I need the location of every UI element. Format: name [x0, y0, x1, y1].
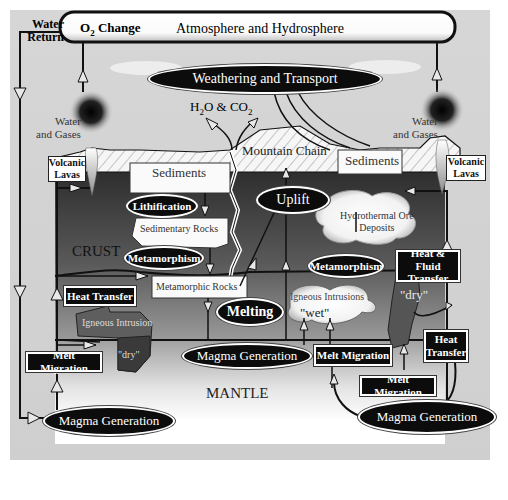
- igneous-intrusions-right-label: Igneous Intrusions: [290, 292, 364, 302]
- heat-fluid-line2: Transfer: [398, 272, 458, 285]
- sediments-right-label: Sediments: [345, 154, 399, 167]
- heat-transfer-left-label: Heat Transfer: [67, 290, 133, 303]
- metamorphism-right-label: Metamorphism: [310, 260, 383, 272]
- weathering-transport-ellipse: Weathering and Transport: [148, 64, 382, 94]
- heat-fluid-line1: Heat & Fluid: [398, 247, 458, 272]
- water-left-line2: and Gases: [36, 128, 81, 141]
- hydrothermal-line2: Deposits: [340, 222, 414, 234]
- magma-generation-left-ellipse: Magma Generation: [43, 406, 175, 436]
- metamorphism-left-ellipse: Metamorphism: [124, 246, 204, 270]
- sediments-left-label: Sediments: [152, 166, 206, 179]
- melt-migration-left-label: Melt Migration: [28, 349, 100, 374]
- melt-migration-center-box: Melt Migration: [314, 345, 392, 366]
- dry-right-label: "dry": [400, 288, 428, 301]
- water-return-label: Water Return: [20, 18, 64, 44]
- uplift-label: Uplift: [276, 192, 309, 208]
- heat-right-line1: Heat: [426, 333, 467, 346]
- heat-right-line2: Transfer: [426, 346, 467, 359]
- igneous-intrusion-left-label: Igneous Intrusion: [82, 318, 152, 328]
- water-gases-right-label: Water and Gases: [393, 115, 438, 140]
- melt-migration-left-box: Melt Migration: [26, 352, 102, 372]
- o2-change-text: Change: [95, 20, 141, 35]
- water-left-line1: Water: [36, 115, 81, 128]
- melting-label: Melting: [227, 304, 274, 320]
- o-and-co-text: O & CO: [204, 99, 248, 114]
- atmosphere-hydrosphere-label: Atmosphere and Hydrosphere: [176, 22, 344, 36]
- volcanic-lavas-left-box: VolcanicLavas: [48, 156, 86, 182]
- mountain-chain-label: Mountain Chain: [242, 144, 327, 157]
- sedimentary-rocks-label: Sedimentary Rocks: [140, 224, 218, 234]
- heat-transfer-left-box: Heat Transfer: [64, 286, 136, 306]
- lavas-right-line2: Lavas: [448, 168, 484, 180]
- hydrothermal-line1: Hydrothermal Ore: [340, 210, 414, 222]
- magma-generation-center-label: Magma Generation: [197, 348, 298, 364]
- co2-subscript: 2: [248, 107, 253, 117]
- lavas-left-line2: Lavas: [49, 169, 85, 181]
- volcanic-right-line1: Volcanic: [448, 156, 484, 168]
- metamorphism-right-ellipse: Metamorphism: [308, 254, 384, 278]
- melt-migration-bottom-label: Melt Migration: [362, 373, 434, 398]
- lithification-ellipse: Lithification: [126, 194, 198, 218]
- weathering-transport-label: Weathering and Transport: [192, 71, 337, 87]
- water-return-line2: Return: [20, 31, 64, 44]
- magma-generation-left-label: Magma Generation: [59, 413, 160, 429]
- o2-change-label: O2 Change: [80, 21, 141, 38]
- melt-migration-center-label: Melt Migration: [317, 349, 389, 362]
- hydrothermal-label: Hydrothermal Ore Deposits: [340, 210, 414, 233]
- lithification-label: Lithification: [133, 200, 192, 212]
- magma-generation-right-label: Magma Generation: [377, 409, 478, 425]
- magma-generation-center-ellipse: Magma Generation: [182, 343, 312, 369]
- o2-symbol: O: [80, 20, 90, 35]
- h-symbol: H: [190, 99, 199, 114]
- water-right-line1: Water: [393, 115, 438, 128]
- rock-cycle-diagram: Water Return O2 Change Atmosphere and Hy…: [0, 0, 508, 500]
- dry-left-label: "dry": [118, 350, 140, 360]
- wet-label: "wet": [300, 306, 329, 319]
- metamorphic-rocks-label: Metamorphic Rocks: [156, 282, 237, 292]
- heat-transfer-right-box: HeatTransfer: [424, 330, 468, 362]
- melt-migration-bottom-box: Melt Migration: [360, 376, 436, 396]
- volcanic-lavas-right-box: VolcanicLavas: [446, 155, 486, 181]
- mantle-label: MANTLE: [206, 386, 269, 401]
- h2o-co2-label: H2O & CO2: [190, 100, 252, 117]
- volcanic-left-line1: Volcanic: [49, 157, 85, 169]
- magma-generation-right-ellipse: Magma Generation: [358, 400, 496, 434]
- water-right-line2: and Gases: [393, 128, 438, 141]
- crust-label: CRUST: [72, 244, 120, 259]
- melting-ellipse: Melting: [216, 298, 284, 326]
- heat-fluid-transfer-box: Heat & FluidTransfer: [396, 250, 460, 282]
- metamorphism-left-label: Metamorphism: [128, 252, 201, 264]
- uplift-ellipse: Uplift: [256, 186, 330, 214]
- water-gases-left-label: Water and Gases: [36, 115, 81, 140]
